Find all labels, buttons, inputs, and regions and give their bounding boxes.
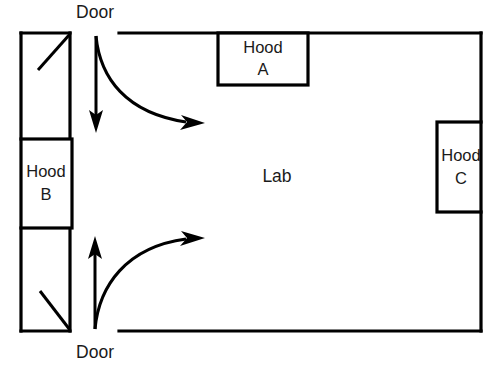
hood-c-box[interactable] bbox=[437, 122, 481, 212]
flow-top-curved-shaft bbox=[96, 36, 186, 122]
hood-b[interactable]: Hood B bbox=[21, 139, 72, 228]
airflow-top bbox=[89, 36, 205, 133]
room-label: Lab bbox=[262, 166, 291, 186]
door-bottom-label: Door bbox=[76, 342, 114, 362]
hood-b-box[interactable] bbox=[21, 139, 72, 228]
door-top-label: Door bbox=[76, 2, 114, 22]
hood-a-label-letter: A bbox=[257, 60, 268, 78]
lab-floorplan-diagram: Hood A Hood B Hood C bbox=[0, 0, 498, 368]
flow-bottom-curved-shaft bbox=[95, 239, 186, 329]
hood-c-label-name: Hood bbox=[441, 146, 480, 164]
hood-c-label-letter: C bbox=[455, 169, 467, 187]
hood-b-label-letter: B bbox=[40, 185, 51, 203]
door-leaf-top-icon bbox=[38, 34, 70, 70]
hood-a[interactable]: Hood A bbox=[218, 33, 308, 85]
airflow-bottom bbox=[88, 231, 205, 329]
hood-c[interactable]: Hood C bbox=[437, 122, 481, 212]
hood-a-label-name: Hood bbox=[243, 38, 282, 56]
door-leaf-bottom-icon bbox=[40, 291, 70, 330]
hood-b-label-name: Hood bbox=[26, 162, 65, 180]
floorplan-svg: Hood A Hood B Hood C bbox=[0, 0, 498, 368]
